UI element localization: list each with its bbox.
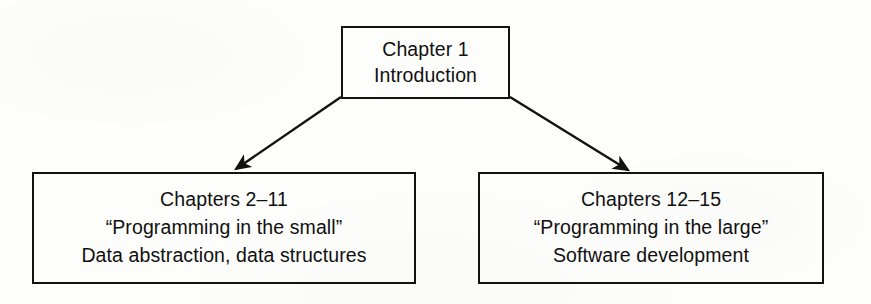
chapters-12-15-node: Chapters 12–15 “Programming in the large…: [478, 172, 824, 284]
chapters-12-15-node-line-2: “Programming in the large”: [534, 214, 769, 242]
chapters-2-11-node: Chapters 2–11 “Programming in the small”…: [32, 172, 416, 284]
chapters-2-11-node-line-3: Data abstraction, data structures: [81, 242, 366, 270]
edge-root-to-small: [236, 97, 341, 169]
chapters-2-11-node-line-1: Chapters 2–11: [160, 186, 288, 214]
chapter-1-node: Chapter 1 Introduction: [341, 26, 510, 99]
chapters-12-15-node-line-1: Chapters 12–15: [581, 186, 721, 214]
diagram-canvas: Chapter 1 Introduction Chapters 2–11 “Pr…: [0, 0, 871, 304]
chapter-1-node-line-1: Chapter 1: [382, 37, 469, 62]
edge-root-to-large: [510, 97, 628, 170]
chapters-2-11-node-line-2: “Programming in the small”: [106, 214, 343, 242]
chapters-12-15-node-line-3: Software development: [553, 242, 749, 270]
chapter-1-node-line-2: Introduction: [374, 63, 477, 88]
